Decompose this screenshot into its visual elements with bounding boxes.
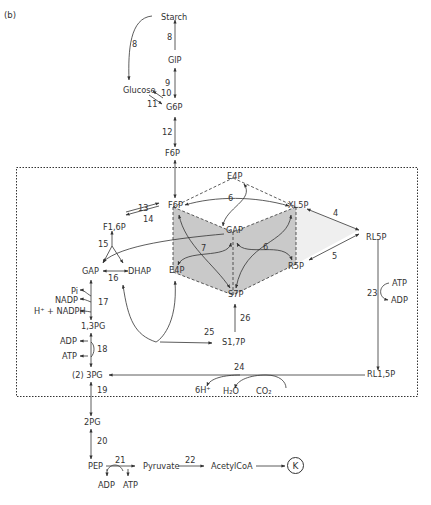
metabolite-nadp: NADP xyxy=(55,296,78,304)
reaction-12: 12 xyxy=(162,128,172,136)
metabolite-e4p-top: E4P xyxy=(227,172,242,180)
metabolite-s7p: S7P xyxy=(228,290,243,298)
reaction-5: 5 xyxy=(332,252,337,260)
reaction-8b: 8 xyxy=(167,33,172,41)
metabolite-atp-21: ATP xyxy=(123,481,138,489)
reaction-18: 18 xyxy=(97,345,107,353)
reaction-8a: 8 xyxy=(132,40,137,48)
reaction-10: 10 xyxy=(161,89,171,97)
reaction-24: 24 xyxy=(234,363,244,371)
metabolite-6h: 6H⁺ xyxy=(195,386,211,394)
metabolite-atp-18: ATP xyxy=(62,352,77,360)
reaction-16: 16 xyxy=(108,274,118,282)
triangle-face xyxy=(296,205,359,264)
reaction-25: 25 xyxy=(204,328,214,336)
metabolite-3pg: (2) 3PG xyxy=(72,371,103,379)
metabolite-h2o: H₂O xyxy=(223,387,239,395)
pathway-diagram xyxy=(0,0,431,505)
panel-label: (b) xyxy=(4,10,16,20)
metabolite-rl5p: RL5P xyxy=(366,233,386,241)
metabolite-xl5p: XL5P xyxy=(288,201,308,209)
metabolite-adp-21: ADP xyxy=(98,481,115,489)
metabolite-co2: CO₂ xyxy=(256,387,271,395)
metabolite-e4p-bottom: E4P xyxy=(169,266,184,274)
reaction-11: 11 xyxy=(147,100,157,108)
reaction-23: 23 xyxy=(367,289,377,297)
metabolite-r5p: R5P xyxy=(288,262,304,270)
metabolite-atp-23: ATP xyxy=(392,279,407,287)
reaction-9: 9 xyxy=(165,79,170,87)
reaction-6a: 6 xyxy=(228,194,233,202)
reaction-13: 13 xyxy=(138,204,148,212)
reaction-17: 17 xyxy=(98,298,108,306)
metabolite-dhap: DHAP xyxy=(128,267,151,275)
reaction-6b: 6 xyxy=(263,243,268,251)
reaction-22: 22 xyxy=(185,456,195,464)
metabolite-2pg: 2PG xyxy=(84,418,101,426)
reaction-19: 19 xyxy=(97,386,107,394)
metabolite-rl15p: RL1,5P xyxy=(367,370,395,378)
metabolite-1-3pg: 1,3PG xyxy=(81,322,105,330)
metabolite-acetylcoa: AcetylCoA xyxy=(211,462,253,470)
reaction-7: 7 xyxy=(201,244,206,252)
metabolite-starch: Starch xyxy=(161,13,187,21)
reaction-26: 26 xyxy=(240,314,250,322)
reaction-21: 21 xyxy=(115,456,125,464)
metabolite-gap: GAP xyxy=(82,267,99,275)
metabolite-gap-center: GAP xyxy=(226,226,243,234)
metabolite-s17p: S1,7P xyxy=(222,338,245,346)
metabolite-adp-23: ADP xyxy=(391,296,408,304)
metabolite-pyruvate: Pyruvate xyxy=(143,462,179,470)
metabolite-f16p: F1,6P xyxy=(103,223,126,231)
reaction-4: 4 xyxy=(333,209,338,217)
metabolite-k: K xyxy=(287,457,304,474)
metabolite-nadph: H⁺ + NADPH xyxy=(34,307,86,315)
metabolite-f6p-top: F6P xyxy=(165,149,180,157)
metabolite-pi: Pi xyxy=(71,287,78,295)
reaction-15: 15 xyxy=(98,240,108,248)
reaction-20: 20 xyxy=(97,437,107,445)
metabolite-g1p: GlP xyxy=(168,56,182,64)
metabolite-adp-18: ADP xyxy=(60,337,77,345)
metabolite-pep: PEP xyxy=(88,462,103,470)
metabolite-f6p: F6P xyxy=(168,201,183,209)
metabolite-glucose: Glucose xyxy=(123,86,156,94)
metabolite-g6p: G6P xyxy=(166,103,183,111)
reaction-14: 14 xyxy=(143,215,153,223)
